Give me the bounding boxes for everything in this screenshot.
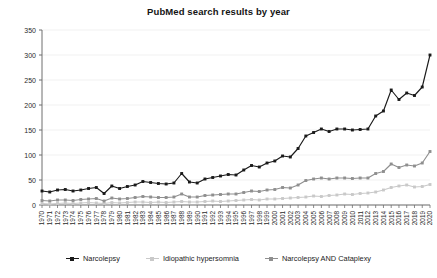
x-tick-label: 2020 — [426, 211, 433, 226]
x-tick-label: 2004 — [302, 211, 309, 226]
data-point-marker — [110, 185, 113, 188]
x-tick-label: 2019 — [419, 211, 426, 226]
data-point-marker — [304, 135, 307, 138]
data-point-marker — [180, 200, 183, 203]
data-point-marker — [64, 188, 67, 191]
data-point-marker — [118, 187, 121, 190]
data-point-marker — [149, 181, 152, 184]
x-tick-label: 2016 — [395, 211, 402, 226]
data-point-marker — [95, 186, 98, 189]
data-point-marker — [413, 186, 416, 189]
grid-lines — [42, 30, 430, 205]
data-point-marker — [103, 192, 106, 195]
data-point-marker — [398, 166, 401, 169]
x-tick-label: 2006 — [318, 211, 325, 226]
y-tick-label: 50 — [28, 177, 36, 184]
data-point-marker — [382, 110, 385, 113]
data-point-marker — [48, 203, 51, 206]
data-point-marker — [126, 185, 129, 188]
x-tick-label: 2012 — [364, 211, 371, 226]
data-point-marker — [56, 202, 59, 205]
x-tick-label: 1984 — [147, 211, 154, 226]
data-point-marker — [328, 178, 331, 181]
x-tick-label: 1998 — [256, 211, 263, 226]
data-point-marker — [227, 173, 230, 176]
x-tick-label: 1976 — [85, 211, 92, 226]
data-point-marker — [157, 182, 160, 185]
data-point-marker — [320, 177, 323, 180]
data-point-marker — [64, 202, 67, 205]
x-tick-label: 1999 — [263, 211, 270, 226]
data-point-marker — [335, 128, 338, 131]
data-point-marker — [343, 128, 346, 131]
data-point-marker — [258, 199, 261, 202]
x-tick-label: 1978 — [100, 211, 107, 226]
data-point-marker — [188, 181, 191, 184]
legend-marker — [150, 257, 154, 261]
x-tick-label: 1983 — [139, 211, 146, 226]
x-tick-label: 2003 — [294, 211, 301, 226]
data-point-marker — [219, 200, 222, 203]
data-point-marker — [421, 162, 424, 165]
data-point-marker — [359, 177, 362, 180]
data-point-marker — [79, 202, 82, 205]
data-point-marker — [219, 193, 222, 196]
data-point-marker — [134, 196, 137, 199]
data-point-marker — [328, 130, 331, 133]
data-point-marker — [157, 201, 160, 204]
x-tick-label: 2013 — [372, 211, 379, 226]
x-tick-label: 1997 — [248, 211, 255, 226]
x-tick-label: 1990 — [194, 211, 201, 226]
data-point-marker — [273, 188, 276, 191]
data-point-marker — [211, 200, 214, 203]
data-point-marker — [134, 184, 137, 187]
data-point-marker — [413, 94, 416, 97]
data-point-marker — [79, 198, 82, 201]
data-point-marker — [180, 193, 183, 196]
x-tick-label: 2000 — [271, 211, 278, 226]
data-point-marker — [172, 196, 175, 199]
data-point-marker — [172, 201, 175, 204]
data-point-marker — [56, 199, 59, 202]
legend-marker — [70, 257, 74, 261]
data-point-marker — [351, 177, 354, 180]
data-point-marker — [41, 202, 44, 205]
data-point-marker — [141, 195, 144, 198]
data-point-marker — [289, 156, 292, 159]
data-point-marker — [390, 186, 393, 189]
data-point-marker — [366, 177, 369, 180]
x-tick-label: 1993 — [217, 211, 224, 226]
chart-legend: NarcolepsyIdiopathic hypersomniaNarcolep… — [0, 254, 437, 263]
data-point-marker — [366, 192, 369, 195]
legend-entry[interactable]: Narcolepsy — [66, 254, 120, 263]
y-axis-ticks: 050100150200250300350 — [24, 27, 42, 209]
data-point-marker — [328, 194, 331, 197]
data-point-marker — [405, 184, 408, 187]
data-point-marker — [87, 187, 90, 190]
data-point-marker — [281, 197, 284, 200]
x-tick-label: 2014 — [380, 211, 387, 226]
x-tick-label: 2002 — [287, 211, 294, 226]
data-point-marker — [126, 197, 129, 200]
data-point-marker — [219, 175, 222, 178]
data-point-marker — [180, 172, 183, 175]
axis-lines — [42, 30, 430, 205]
data-point-marker — [196, 201, 199, 204]
legend-entry[interactable]: Narcolepsy AND Cataplexy — [265, 254, 371, 263]
data-point-marker — [95, 197, 98, 200]
data-series-group — [41, 54, 432, 206]
y-tick-label: 100 — [24, 152, 36, 159]
x-tick-label: 1989 — [186, 211, 193, 226]
x-tick-label: 1991 — [201, 211, 208, 226]
data-point-marker — [320, 195, 323, 198]
data-point-marker — [165, 201, 168, 204]
data-point-marker — [289, 197, 292, 200]
x-tick-label: 1971 — [46, 211, 53, 226]
legend-entry[interactable]: Idiopathic hypersomnia — [146, 254, 239, 263]
data-point-marker — [429, 183, 432, 186]
x-tick-label: 2005 — [310, 211, 317, 226]
series-line — [42, 55, 430, 194]
data-point-marker — [134, 201, 137, 204]
data-point-marker — [188, 196, 191, 199]
data-point-marker — [366, 128, 369, 131]
